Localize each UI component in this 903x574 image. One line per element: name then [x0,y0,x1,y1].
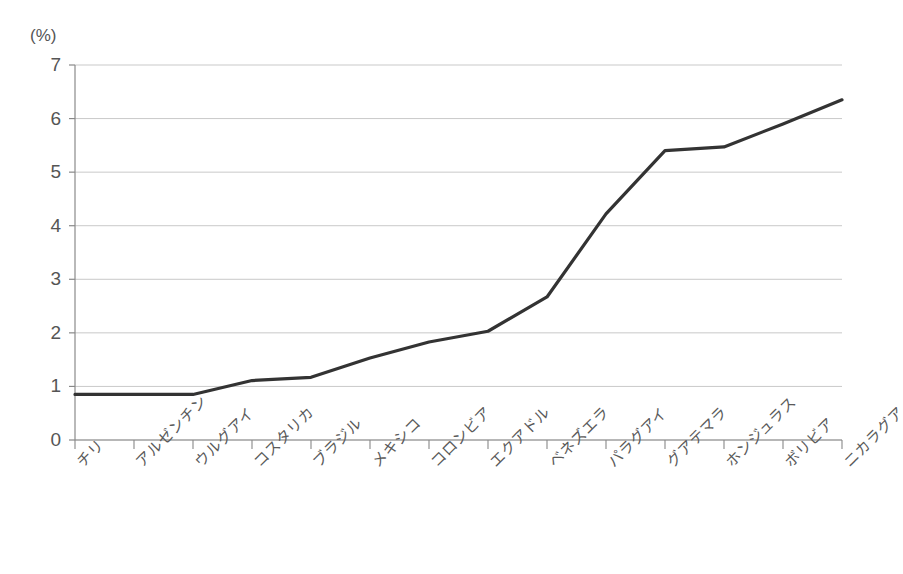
y-axis-tick-label: 2 [31,323,61,342]
y-axis-tick-label: 3 [31,269,61,288]
y-axis-tick-label: 7 [31,55,61,74]
y-axis-tick-label: 5 [31,162,61,181]
y-axis-tick-label: 1 [31,376,61,395]
data-series-line [75,100,842,395]
y-axis-tick-label: 0 [31,430,61,449]
gridlines [69,65,842,440]
y-axis-tick-label: 6 [31,109,61,128]
y-axis-tick-label: 4 [31,216,61,235]
